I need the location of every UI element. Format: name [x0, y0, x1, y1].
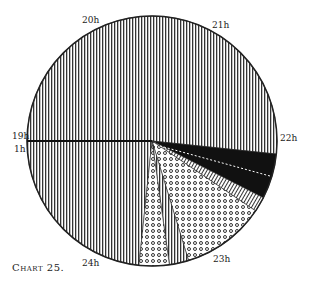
hour-label: 24h [82, 258, 99, 268]
hour-label: 20h [82, 15, 99, 25]
chart-caption: Chart 25. [12, 262, 64, 273]
hour-label: 23h [213, 254, 230, 264]
hour-label: 22h [280, 133, 297, 143]
pie-chart [0, 0, 312, 286]
hour-label: 1h [14, 144, 26, 154]
hour-label: 21h [212, 20, 229, 30]
hour-label: 19h [12, 131, 29, 141]
